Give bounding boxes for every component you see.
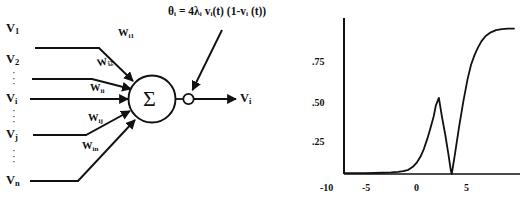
x-tick-label-0: 0 [414,182,419,193]
y-tick-label-25: .25 [312,136,325,147]
figure-root: V1 V2 Vi Vj Vn ··· ··· ··· Wi1 Wi2 Wii W… [0,0,530,212]
weight-label-5: Win [82,141,98,153]
y-tick-label-50: .50 [312,97,325,108]
threshold-formula: θᵢ = 4λᵢ vᵢ(t) (1-vᵢ (t)) [168,5,266,17]
threshold-node [183,94,193,104]
input-label-2: V2 [6,53,19,66]
input-ellipsis-2: ··· [12,108,16,125]
input-edge-1 [35,48,133,81]
input-edge-4 [33,111,130,135]
x-tick-label-neg10: -10 [320,182,333,193]
y-tick-label-75: .75 [312,56,325,67]
output-label: Vi [240,92,251,105]
input-label-5: Vn [6,174,20,187]
x-tick-label-neg5: -5 [362,182,370,193]
theta-edge [193,30,223,90]
summation-symbol: Σ [143,86,156,112]
weight-label-4: Wij [88,113,103,125]
input-edge-2 [32,79,131,89]
input-label-1: V1 [6,22,19,35]
weight-label-1: Wi1 [118,28,134,40]
input-ellipsis-3: ··· [12,148,16,165]
input-ellipsis-1: ··· [12,70,16,87]
weight-label-3: Wii [90,83,104,95]
activation-curve [344,29,514,174]
x-tick-label-5: 5 [464,182,469,193]
activation-plot-svg [265,0,530,212]
input-label-4: Vj [6,128,18,141]
